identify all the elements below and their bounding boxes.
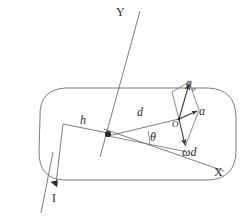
label-distance-d: d: [137, 106, 143, 118]
theta-wedge-lower-line: [108, 136, 188, 152]
height-h-bracket: [56, 124, 108, 184]
parallelogram-side-left: [172, 92, 179, 119]
current-arrowhead-icon: [50, 180, 59, 188]
label-current: I: [52, 192, 56, 204]
label-omega-d: ωd: [182, 146, 196, 158]
label-angle-theta: θ: [150, 131, 156, 143]
label-height-h: h: [80, 114, 86, 126]
figure-container: Y X I h d θ O a ao ωd: [0, 0, 251, 218]
label-accel-a: a: [199, 105, 205, 117]
label-accel-a0: ao: [186, 74, 196, 93]
diagram-canvas: [0, 0, 251, 218]
vector-a: [179, 111, 197, 119]
pivot-node: [105, 131, 111, 137]
x-axis-line: [104, 129, 224, 171]
axis-label-x: X: [214, 166, 223, 178]
body-outline: [39, 88, 236, 180]
axis-label-y: Y: [116, 6, 125, 18]
vector-omega-d: [179, 119, 185, 145]
label-origin: O: [172, 120, 179, 129]
label-accel-a0-subscript: o: [192, 85, 196, 93]
distance-d-line: [108, 119, 179, 136]
